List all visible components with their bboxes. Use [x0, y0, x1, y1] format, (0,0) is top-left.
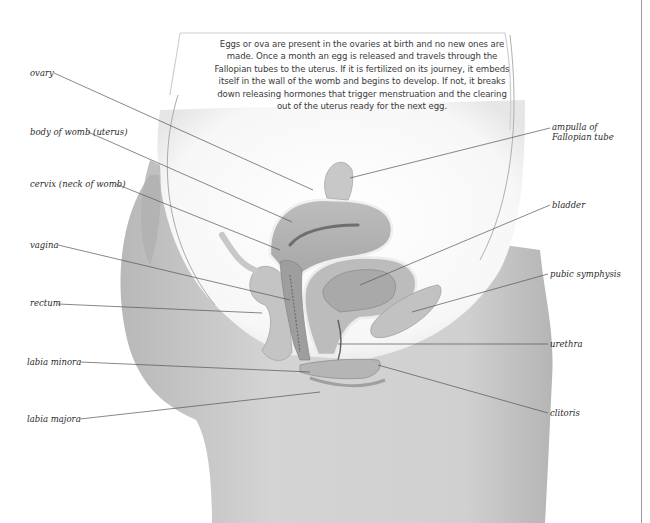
label-ampulla-line1: ampulla of: [552, 122, 598, 132]
label-cervix: cervix (neck of womb): [30, 179, 125, 189]
label-body-of-womb: body of womb (uterus): [30, 127, 128, 137]
label-rectum: rectum: [30, 298, 61, 308]
label-clitoris: clitoris: [550, 408, 580, 418]
label-labia-majora: labia majora: [27, 414, 81, 424]
label-ampulla-line2: Fallopian tube: [552, 132, 614, 142]
caption-text: Eggs or ova are present in the ovaries a…: [212, 38, 512, 112]
anatomy-diagram: Eggs or ova are present in the ovaries a…: [0, 0, 650, 523]
label-labia-minora: labia minora: [27, 357, 81, 367]
page-edge-rule: [641, 0, 642, 523]
label-urethra: urethra: [550, 339, 583, 349]
label-vagina: vagina: [30, 240, 59, 250]
label-bladder: bladder: [552, 200, 585, 210]
label-pubic-symphysis: pubic symphysis: [550, 269, 621, 279]
label-ovary: ovary: [30, 68, 54, 78]
